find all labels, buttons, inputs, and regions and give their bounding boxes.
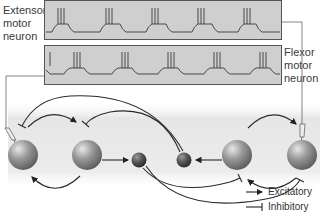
left-inhibitory-neuron: [132, 153, 147, 168]
legend-inhibitory-label: Inhibitory: [268, 201, 309, 212]
left-interneuron: [72, 140, 102, 170]
legend-inhibitory-icon: [246, 203, 262, 211]
background-band: [8, 100, 320, 190]
flexor-trace: [46, 52, 280, 74]
right-motor-neuron: [287, 140, 317, 170]
right-inhibitory-neuron: [177, 153, 192, 168]
right-interneuron: [222, 140, 252, 170]
legend-excitatory-label: Excitatory: [268, 186, 312, 197]
extensor-trace: [46, 8, 280, 32]
left-motor-neuron: [8, 140, 38, 170]
